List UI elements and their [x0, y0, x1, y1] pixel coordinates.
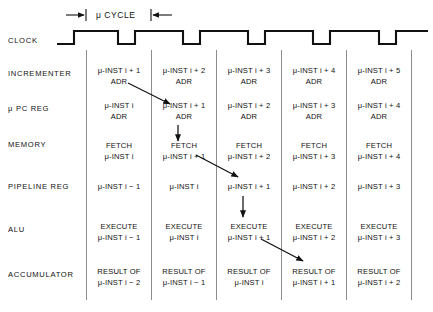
cell-incrementer-c4: μ-INST i + 4ADR [282, 66, 346, 87]
cell-memory-c3: FETCHμ-INST i + 2 [217, 141, 281, 162]
cell-accumulator-c5: RESULT OFμ-INST i + 2 [347, 267, 411, 288]
cell-pipeline-c2: μ-INST i [152, 182, 216, 193]
cell-incrementer-c2: μ-INST i + 2ADR [152, 66, 216, 87]
cell-pcreg-c5: μ-INST i + 4ADR [347, 101, 411, 122]
cell-accumulator-c4: RESULT OFμ-INST i + 1 [282, 267, 346, 288]
cell-accumulator-c3: RESULT OFμ-INST i [217, 267, 281, 288]
cell-memory-c5: FETCHμ-INST i + 4 [347, 141, 411, 162]
cell-alu-c2: EXECUTEμ-INST i [152, 222, 216, 243]
cell-memory-c4: FETCHμ-INST i + 3 [282, 141, 346, 162]
cell-pcreg-c4: μ-INST i + 3ADR [282, 101, 346, 122]
cell-incrementer-c1: μ-INST i + 1ADR [87, 66, 151, 87]
row-label-alu: ALU [8, 225, 25, 234]
clock-waveform [57, 31, 428, 44]
cell-pcreg-c3: μ-INST i + 2ADR [217, 101, 281, 122]
row-label-memory: MEMORY [8, 140, 46, 149]
cell-incrementer-c5: μ-INST i + 5ADR [347, 66, 411, 87]
cell-memory-c1: FETCHμ-INST i [87, 141, 151, 162]
cell-accumulator-c1: RESULT OFμ-INST i − 2 [87, 267, 151, 288]
cell-pcreg-c2: μ-INST i + 1ADR [152, 101, 216, 122]
cell-pcreg-c1: μ-INST iADR [87, 101, 151, 122]
cell-pipeline-c4: μ-INST i + 2 [282, 182, 346, 193]
cell-alu-c3: EXECUTEμ-INST i + 1 [217, 222, 281, 243]
cell-incrementer-c3: μ-INST i + 3ADR [217, 66, 281, 87]
cell-memory-c2: FETCHμ-INST i + 1 [152, 141, 216, 162]
row-label-accumulator: ACCUMULATOR [8, 270, 74, 279]
cell-pipeline-c5: μ-INST i + 3 [347, 182, 411, 193]
cell-accumulator-c2: RESULT OFμ-INST i − 1 [152, 267, 216, 288]
row-label-u-pc-reg: μ PC REG [8, 104, 49, 113]
pipeline-timing-diagram: μ CYCLE CLOCK INCREMENTE [0, 0, 433, 312]
row-label-incrementer: INCREMENTER [8, 69, 71, 78]
cell-alu-c4: EXECUTEμ-INST i + 2 [282, 222, 346, 243]
cell-alu-c5: EXECUTEμ-INST i + 3 [347, 222, 411, 243]
cell-pipeline-c1: μ-INST i − 1 [87, 182, 151, 193]
cell-alu-c1: EXECUTEμ-INST i − 1 [87, 222, 151, 243]
row-label-pipeline-reg: PIPELINE REG [8, 182, 69, 191]
cell-pipeline-c3: μ-INST i + 1 [217, 182, 281, 193]
